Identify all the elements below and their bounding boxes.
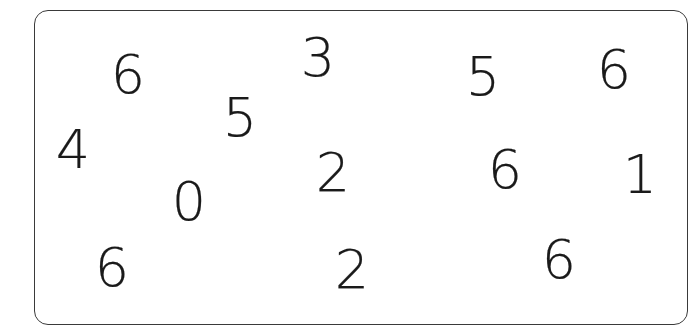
digit: 2: [316, 146, 350, 200]
digit: 5: [466, 50, 500, 104]
digit: 6: [95, 241, 129, 295]
digit: 3: [301, 31, 335, 85]
digit: 5: [223, 91, 257, 145]
digit: 6: [542, 233, 576, 287]
digit: 1: [623, 148, 657, 202]
digit: 0: [172, 175, 206, 229]
digit: 4: [56, 123, 90, 177]
digit: 6: [597, 43, 631, 97]
digit: 6: [111, 48, 145, 102]
digit: 2: [335, 243, 369, 297]
digit: 6: [488, 143, 522, 197]
